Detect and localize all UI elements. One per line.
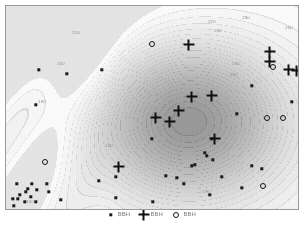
dot-marker bbox=[298, 98, 299, 101]
legend-label: BBH bbox=[151, 210, 163, 219]
contour-label: 250 bbox=[285, 26, 293, 30]
contour-label: 270 bbox=[208, 20, 216, 24]
contour-label: 280 bbox=[242, 16, 250, 20]
contour-label: 260 bbox=[214, 29, 222, 33]
contour-label: 190 bbox=[38, 100, 46, 104]
contour-label: 210 bbox=[72, 31, 80, 35]
contour-label: 160 bbox=[26, 200, 34, 204]
legend-dot-icon bbox=[106, 210, 115, 219]
legend-entry: BBH bbox=[172, 210, 196, 219]
circle-marker bbox=[173, 212, 179, 218]
contour-map-figure: 270280260250230220210200190180170160 BBH… bbox=[0, 0, 304, 226]
contour-heatmap-canvas bbox=[6, 6, 298, 209]
plot-frame: 270280260250230220210200190180170160 bbox=[5, 5, 299, 210]
legend-entry: BBH bbox=[106, 210, 130, 219]
legend-label: BBH bbox=[118, 210, 130, 219]
legend-label: BBH bbox=[183, 210, 195, 219]
contour-label: 220 bbox=[230, 73, 238, 77]
dot-marker bbox=[109, 213, 112, 216]
legend-plus-icon bbox=[139, 210, 148, 219]
legend-entry: BBH bbox=[139, 210, 163, 219]
contour-label: 180 bbox=[105, 144, 113, 148]
contour-label: 230 bbox=[232, 62, 240, 66]
contour-label: 170 bbox=[202, 190, 210, 194]
legend-circle-icon bbox=[172, 210, 181, 219]
contour-label: 200 bbox=[57, 62, 65, 66]
plus-marker bbox=[138, 210, 149, 220]
legend: BBHBBHBBH bbox=[5, 210, 297, 226]
